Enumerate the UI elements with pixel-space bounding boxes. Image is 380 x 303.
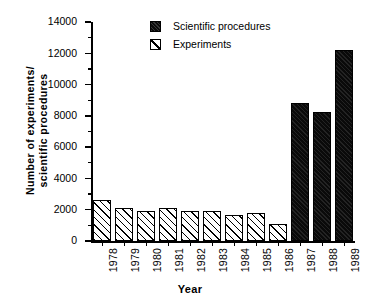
x-tick-label-1985: 1985	[261, 248, 273, 272]
y-axis-title: Number of experiments/ scientific proced…	[24, 31, 49, 231]
x-tick-1982	[190, 241, 191, 246]
x-tick-label-1988: 1988	[327, 248, 339, 272]
y-tick-0: 0	[85, 240, 91, 241]
y-tick-label-2000: 2000	[54, 203, 77, 215]
y-tick-8000: 8000	[85, 115, 91, 116]
y-axis-title-line-2: scientific procedures	[36, 31, 49, 231]
x-axis-line	[91, 241, 355, 243]
x-tick-label-1983: 1983	[217, 248, 229, 272]
y-minor-tick-3000	[88, 193, 92, 194]
bar-1981	[159, 208, 178, 241]
bar-1982	[181, 211, 200, 242]
x-tick-label-1979: 1979	[129, 248, 141, 272]
y-tick-label-4000: 4000	[54, 172, 77, 184]
y-axis-title-line-1: Number of experiments/	[24, 31, 37, 231]
bar-1984	[225, 215, 244, 241]
x-tick-1986	[278, 241, 279, 246]
x-tick-1989	[344, 241, 345, 246]
x-tick-label-1978: 1978	[107, 248, 119, 272]
x-tick-1985	[256, 241, 257, 246]
y-minor-tick-9000	[88, 100, 92, 101]
x-tick-1987	[300, 241, 301, 246]
bar-1985	[247, 213, 266, 241]
plot-area: 02000400060008000100001200014000 1978197…	[91, 22, 355, 241]
x-tick-label-1987: 1987	[305, 248, 317, 272]
y-tick-label-8000: 8000	[54, 109, 77, 121]
y-minor-tick-7000	[88, 131, 92, 132]
y-tick-4000: 4000	[85, 178, 91, 179]
bar-1983	[203, 211, 222, 241]
x-tick-label-1986: 1986	[283, 248, 295, 272]
x-tick-1980	[146, 241, 147, 246]
y-minor-tick-1000	[88, 225, 92, 226]
y-minor-tick-5000	[88, 162, 92, 163]
bar-1986	[269, 224, 288, 241]
bar-1987	[291, 103, 310, 241]
y-tick-10000: 10000	[85, 84, 91, 85]
bar-1979	[115, 208, 134, 241]
x-tick-1978	[102, 241, 103, 246]
x-tick-1984	[234, 241, 235, 246]
x-tick-label-1989: 1989	[349, 248, 361, 272]
y-tick-14000: 14000	[85, 21, 91, 22]
x-tick-1981	[168, 241, 169, 246]
bar-1988	[313, 112, 332, 241]
y-tick-label-14000: 14000	[48, 15, 77, 27]
x-tick-label-1982: 1982	[195, 248, 207, 272]
bar-chart-figure: Number of experiments/ scientific proced…	[0, 0, 380, 303]
y-tick-6000: 6000	[85, 146, 91, 147]
x-tick-1983	[212, 241, 213, 246]
bar-1980	[137, 211, 156, 242]
x-tick-label-1980: 1980	[151, 248, 163, 272]
y-tick-label-0: 0	[71, 234, 77, 246]
x-axis-title: Year	[0, 283, 380, 295]
bar-1978	[93, 200, 112, 241]
x-tick-1988	[322, 241, 323, 246]
y-tick-label-10000: 10000	[48, 78, 77, 90]
bar-1989	[335, 50, 354, 241]
y-minor-tick-11000	[88, 68, 92, 69]
y-tick-label-12000: 12000	[48, 47, 77, 59]
y-tick-label-6000: 6000	[54, 140, 77, 152]
y-tick-12000: 12000	[85, 53, 91, 54]
x-tick-1979	[124, 241, 125, 246]
x-tick-label-1981: 1981	[173, 248, 185, 272]
y-tick-2000: 2000	[85, 209, 91, 210]
y-minor-tick-13000	[88, 37, 92, 38]
x-tick-label-1984: 1984	[239, 248, 251, 272]
